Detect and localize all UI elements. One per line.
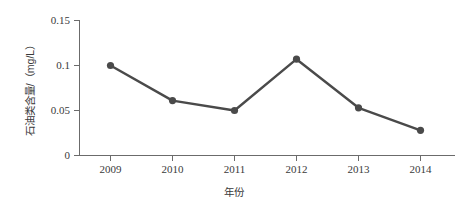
- y-axis-title: 石油类含量/（mg/L）: [24, 40, 36, 136]
- x-tick-label-2013: 2013: [348, 163, 371, 175]
- data-point-2014: [417, 127, 424, 134]
- y-tick-label-1: 0.05: [51, 104, 71, 116]
- data-point-2013: [355, 104, 362, 111]
- data-point-2011: [231, 107, 238, 114]
- y-tick-label-2: 0.1: [56, 59, 70, 71]
- x-tick-label-2009: 2009: [100, 163, 123, 175]
- data-series-petroleum: [107, 56, 424, 134]
- x-axis-title: 年份: [224, 186, 245, 198]
- x-tick-label-2011: 2011: [224, 163, 246, 175]
- y-tick-label-3: 0.15: [51, 14, 71, 26]
- x-tick-label-2014: 2014: [410, 163, 433, 175]
- data-point-2012: [293, 56, 300, 63]
- x-tick-label-2010: 2010: [162, 163, 185, 175]
- y-tick-label-0: 0: [65, 149, 71, 161]
- data-point-2009: [107, 62, 114, 69]
- series-line: [111, 59, 421, 130]
- chart-canvas: 0 0.05 0.1 0.15 2009 2010 2011 2012 2013…: [0, 0, 462, 203]
- data-point-2010: [169, 97, 176, 104]
- line-chart-figure: 0 0.05 0.1 0.15 2009 2010 2011 2012 2013…: [0, 0, 462, 203]
- x-tick-label-2012: 2012: [286, 163, 308, 175]
